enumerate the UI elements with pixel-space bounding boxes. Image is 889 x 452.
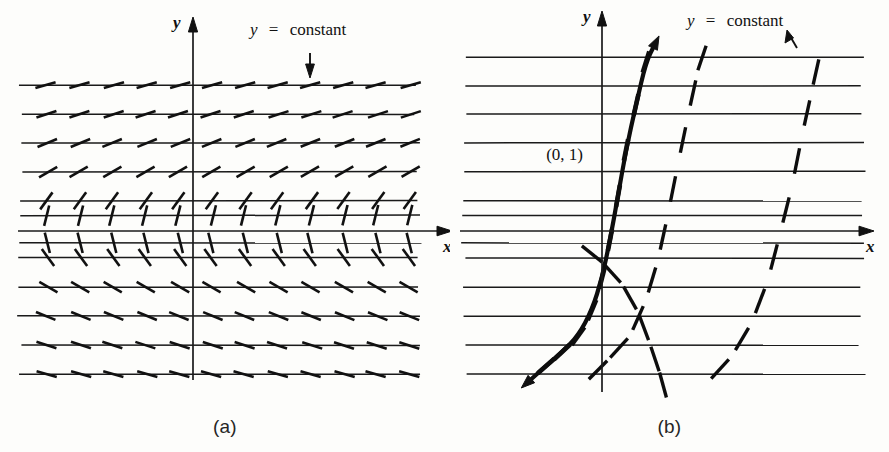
panel-a-constant-annotation: y = constant	[248, 20, 347, 39]
panel-b-constant-annotation: y = constant	[685, 11, 784, 30]
panel-b-caption: (b)	[450, 416, 889, 438]
tangent-segment	[616, 185, 620, 207]
tangent-segment	[648, 268, 655, 293]
panel-b-annot-value: constant	[727, 11, 784, 30]
tangent-segment	[670, 176, 675, 201]
panel-a-plot: y x y = constant	[0, 0, 450, 452]
panel-a-annot-var: y	[248, 20, 258, 39]
panel-b-annotation-pointer-icon	[785, 30, 797, 48]
panel-a-slope-marks	[35, 82, 420, 377]
panel-b-annot-var: y	[685, 11, 695, 30]
panel-a-caption: (a)	[0, 416, 450, 438]
panel-b-annot-eq: =	[706, 11, 716, 30]
gridline-row	[465, 258, 864, 259]
tangent-segment	[690, 80, 696, 105]
tangent-segment	[538, 359, 554, 374]
curve-direction-arrow-icon	[649, 36, 659, 50]
tangent-segment	[711, 359, 729, 378]
tangent-segment	[634, 94, 639, 115]
panel-b-y-axis-label: y	[581, 7, 591, 26]
tangent-segment	[610, 338, 628, 357]
panel-a-annot-value: constant	[290, 20, 347, 39]
tangent-segment	[554, 344, 570, 359]
tangent-segment	[624, 287, 637, 310]
panel-a-annotation-pointer-icon	[306, 53, 315, 78]
tangent-segment	[755, 289, 764, 313]
panel-a-y-axis	[188, 17, 197, 380]
tangent-segment	[660, 224, 666, 249]
tangent-segment	[813, 59, 819, 84]
panel-b-plot: y x y = constant (0, 1)	[450, 0, 889, 452]
solution-curve-bold	[528, 44, 655, 382]
tangent-segment	[680, 127, 685, 152]
panel-b-x-axis-label: x	[865, 237, 875, 256]
figure-root: y x y = constant (a)	[0, 0, 889, 452]
tangent-segment	[572, 327, 585, 345]
panel-b-x-axis	[460, 226, 874, 236]
panel-a-x-axis-label: x	[442, 237, 450, 256]
tangent-segment	[582, 246, 602, 262]
panel-a-y-axis-label: y	[171, 13, 181, 32]
panel-a-x-axis	[18, 226, 450, 236]
tangent-segment	[660, 372, 667, 397]
panel-a-gridlines	[17, 85, 421, 374]
panel-b-solution-curves	[521, 36, 819, 398]
panel-a-annot-eq: =	[269, 20, 279, 39]
panel-b: y x y = constant (0, 1) (b)	[450, 0, 889, 452]
tangent-segment	[639, 316, 648, 340]
tangent-segment	[608, 229, 612, 251]
tangent-segment	[771, 244, 778, 269]
tangent-segment	[735, 328, 748, 350]
tangent-segment	[643, 51, 650, 72]
tangent-segment	[794, 148, 799, 173]
tangent-segment	[603, 263, 620, 282]
tangent-segment	[589, 361, 607, 379]
tangent-segment	[651, 347, 659, 372]
panel-a: y x y = constant (a)	[0, 0, 450, 452]
gridline-row	[464, 171, 865, 172]
panel-b-point-label: (0, 1)	[546, 145, 583, 164]
panel-b-gridlines	[461, 57, 865, 374]
